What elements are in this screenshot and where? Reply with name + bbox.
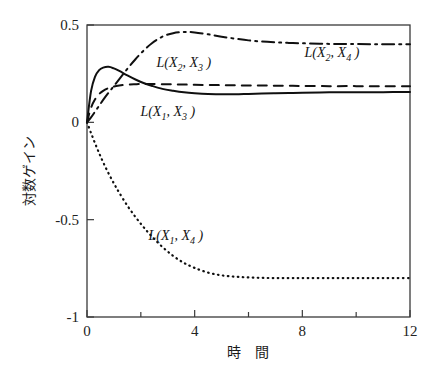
- curve-labels-group: L(X1, X3 )L(X2, X3 )L(X2, X4 )L(X1, X4 ): [139, 45, 359, 246]
- curve-dashdot: [87, 32, 410, 122]
- x-tick-label: 12: [403, 323, 418, 339]
- y-tick-label: 0: [72, 114, 80, 130]
- x-tick-label: 4: [191, 323, 199, 339]
- curve-label: L(X2, X3 ): [156, 55, 212, 73]
- figure-container: 048120.50-0.5-1 L(X1, X3 )L(X2, X3 )L(X2…: [0, 0, 439, 375]
- x-tick-label: 0: [83, 323, 91, 339]
- y-tick-label: -1: [67, 309, 80, 325]
- y-tick-label: 0.5: [60, 17, 79, 33]
- axis-ticks-group: [87, 25, 410, 317]
- plot-frame: [87, 25, 410, 317]
- log-gain-line-chart: 048120.50-0.5-1 L(X1, X3 )L(X2, X3 )L(X2…: [0, 0, 439, 375]
- x-axis-title: 時 間: [227, 344, 269, 360]
- axis-tick-labels-group: 048120.50-0.5-1: [55, 17, 417, 339]
- y-tick-label: -0.5: [55, 212, 79, 228]
- curve-label: L(X1, X4 ): [147, 228, 203, 246]
- curve-dotted: [87, 122, 410, 278]
- x-tick-label: 8: [299, 323, 307, 339]
- curve-dashed: [87, 84, 410, 122]
- curves-group: [87, 32, 410, 278]
- y-axis-title: 対数ゲイン: [21, 136, 37, 206]
- curve-label: L(X1, X3 ): [139, 104, 195, 122]
- curve-solid: [87, 67, 410, 123]
- curve-label: L(X2, X4 ): [304, 45, 360, 63]
